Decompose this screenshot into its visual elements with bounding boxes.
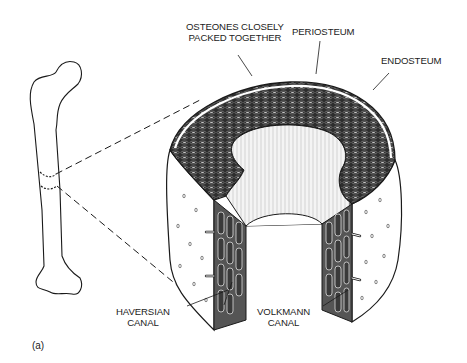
label-osteones: OSTEONES CLOSELY PACKED TOGETHER	[186, 21, 284, 43]
label-volkmann-canal: VOLKMANN CANAL	[257, 306, 310, 328]
femur-bone-icon	[30, 61, 81, 294]
label-periosteum: PERIOSTEUM	[292, 26, 354, 37]
bone-cylinder	[167, 82, 402, 330]
label-endosteum: ENDOSTEUM	[381, 55, 441, 66]
label-haversian-canal: HAVERSIAN CANAL	[116, 306, 170, 328]
bone-structure-diagram: OSTEONES CLOSELY PACKED TOGETHER PERIOST…	[0, 0, 467, 363]
panel-label: (a)	[32, 340, 44, 351]
